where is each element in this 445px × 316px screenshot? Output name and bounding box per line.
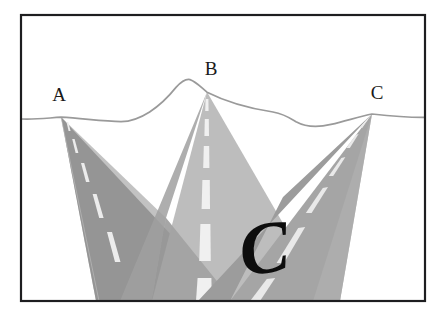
vertex-label-c: C [371,82,384,103]
vertex-label-a: A [52,84,66,105]
vertex-label-b: B [205,58,218,79]
figure-canvas: C A B C [21,15,425,301]
figure-root: C A B C [0,0,445,316]
road-perspective-illustration: C A B C [0,0,445,316]
